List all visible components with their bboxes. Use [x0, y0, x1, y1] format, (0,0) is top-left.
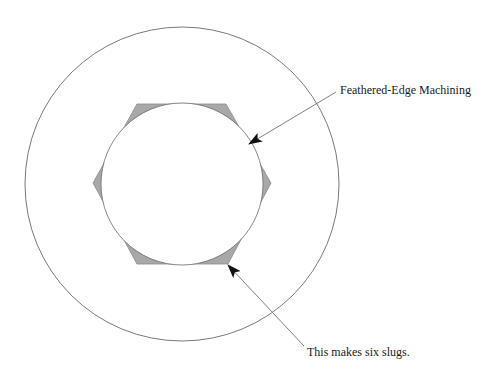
feathered-edge-label: Feathered-Edge Machining	[340, 83, 471, 97]
feathered-edge-leader-arrow	[249, 92, 336, 144]
six-slugs-label: This makes six slugs.	[307, 345, 410, 359]
six-slugs-leader-arrow	[228, 265, 304, 346]
inner-circle-bore	[101, 103, 263, 265]
feathered-edge-diagram: Feathered-Edge MachiningThis makes six s…	[0, 0, 494, 378]
